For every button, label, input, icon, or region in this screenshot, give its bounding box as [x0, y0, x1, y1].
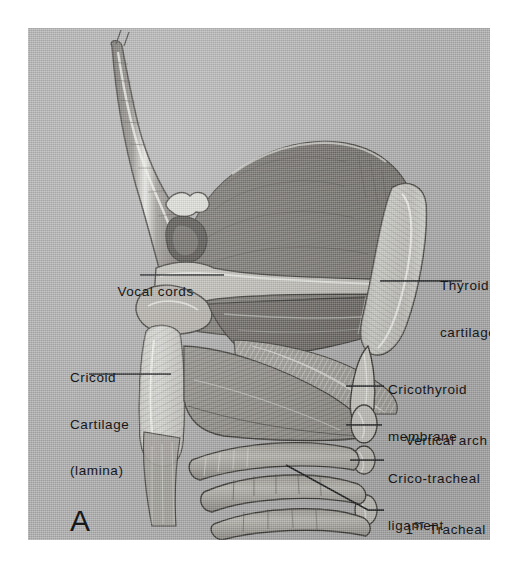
tracheal-rings: [189, 443, 370, 540]
arytenoid-cartilage: [166, 193, 209, 263]
label-cricoid-cartilage: Cricoid Cartilage (lamina): [70, 339, 129, 510]
label-tracheal-ring-suffix: ST: [414, 520, 425, 530]
vertical-arch: [351, 405, 377, 443]
label-vocal-cords: Vocal cords: [100, 268, 194, 315]
label-cricoid-line2: Cartilage: [70, 417, 129, 433]
figure-panel: Vocal cords Thyroid cartilage Cricoid Ca…: [28, 28, 490, 540]
label-thyroid-cartilage-line1: Thyroid: [440, 278, 490, 294]
cricoid-cartilage-lamina: [139, 325, 184, 526]
label-vocal-cords-text: Vocal cords: [117, 284, 193, 299]
label-cricoid-line1: Cricoid: [70, 370, 129, 386]
label-crico-tracheal-line1: Crico-tracheal: [388, 471, 480, 487]
label-tracheal-ring-number: 1: [405, 521, 413, 536]
label-cricoid-line3: (lamina): [70, 463, 129, 479]
label-first-tracheal-ring: 1ST Tracheal ring: [388, 502, 490, 540]
panel-letter: A: [70, 506, 90, 536]
label-cricothyroid-line1: Cricothyroid: [388, 382, 467, 398]
label-tracheal-ring-rest: Tracheal ring: [425, 521, 490, 536]
label-thyroid-cartilage-line2: cartilage: [440, 325, 490, 341]
